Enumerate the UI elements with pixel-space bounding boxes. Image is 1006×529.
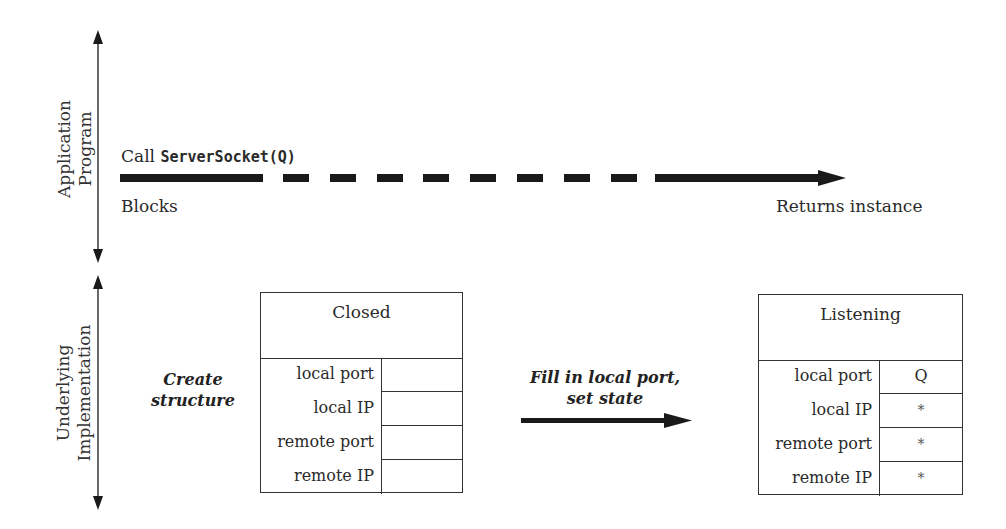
- state-header: Closed: [261, 293, 462, 359]
- step-line-1: Fill in local port,: [520, 367, 690, 388]
- field-label: local IP: [759, 394, 880, 428]
- field-label: remote port: [759, 428, 880, 462]
- field-row: local IP: [261, 392, 462, 426]
- field-label: remote port: [261, 426, 382, 460]
- call-label: Call ServerSocket(Q): [121, 146, 296, 166]
- field-value: [382, 358, 462, 392]
- field-row: local port Q: [759, 360, 962, 394]
- field-label: local port: [759, 360, 880, 394]
- field-row: remote port: [261, 426, 462, 460]
- label-line-1: Underlying: [53, 323, 74, 463]
- field-value: [382, 392, 462, 426]
- field-value: [382, 426, 462, 460]
- returns-instance-label: Returns instance: [776, 196, 922, 216]
- field-row: local IP *: [759, 394, 962, 428]
- application-program-label: Application Program: [54, 94, 96, 204]
- field-label: local IP: [261, 392, 382, 426]
- listening-socket-structure: Listening local port Q local IP * remote…: [758, 294, 963, 495]
- create-structure-label: Create structure: [148, 369, 238, 411]
- label-line-1: Application: [54, 94, 75, 204]
- field-label: remote IP: [759, 462, 880, 496]
- call-prefix: Call: [121, 146, 155, 166]
- field-row: remote IP *: [759, 462, 962, 496]
- state-header: Listening: [759, 295, 962, 361]
- blocking-timeline-arrow: [120, 170, 846, 186]
- field-value: Q: [880, 360, 962, 394]
- blocks-label: Blocks: [121, 196, 178, 216]
- transition-arrow: [521, 413, 692, 428]
- closed-socket-structure: Closed local port local IP remote port r…: [260, 292, 463, 493]
- field-value: *: [880, 462, 962, 496]
- label-line-2: Implementation: [74, 323, 95, 463]
- field-value: *: [880, 394, 962, 428]
- step-line-1: Create: [148, 369, 238, 390]
- step-line-2: structure: [148, 390, 238, 411]
- field-row: remote port *: [759, 428, 962, 462]
- step-line-2: set state: [520, 388, 690, 409]
- call-code: ServerSocket(Q): [160, 148, 295, 166]
- label-line-2: Program: [75, 94, 96, 204]
- field-row: remote IP: [261, 460, 462, 494]
- field-label: remote IP: [261, 460, 382, 494]
- field-label: local port: [261, 358, 382, 392]
- field-value: *: [880, 428, 962, 462]
- field-row: local port: [261, 358, 462, 392]
- fill-in-local-port-label: Fill in local port, set state: [520, 367, 690, 409]
- field-value: [382, 460, 462, 494]
- underlying-implementation-label: Underlying Implementation: [53, 323, 95, 463]
